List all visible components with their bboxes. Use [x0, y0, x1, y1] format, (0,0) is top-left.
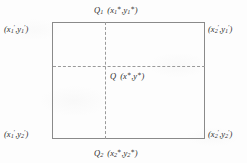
- horizontal-dashed-line: [53, 66, 205, 67]
- label-center-point-q: Q (x∗,y∗): [110, 71, 144, 80]
- label-bottom-point-name: Q2: [94, 148, 103, 158]
- label-top-right-coordinates: (x2′,y1′): [208, 24, 232, 34]
- label-top-left-corner: (x1′,y1′): [4, 24, 28, 34]
- label-bottom-left-corner: (x1′,y2′): [4, 129, 28, 139]
- label-bottom-right-coordinates: (x2′,y2′): [208, 129, 232, 139]
- label-bottom-coordinates: (x2∗,y2∗): [107, 148, 137, 158]
- label-top-coordinates: (x1∗,y1∗): [107, 5, 137, 15]
- label-bottom-point-q2: Q2 (x2∗,y2∗): [94, 148, 138, 158]
- label-bottom-right-corner: (x2′,y2′): [208, 129, 232, 139]
- label-center-coordinates: (x∗,y∗): [120, 71, 144, 81]
- label-top-point-q1: Q1 (x1∗,y1∗): [94, 5, 138, 15]
- figure-canvas: Q1 (x1∗,y1∗) Q2 (x2∗,y2∗) (x1′,y1′) (x2′…: [0, 0, 247, 163]
- label-center-point-name: Q: [110, 71, 116, 81]
- label-top-point-name: Q1: [94, 5, 103, 15]
- label-top-left-coordinates: (x1′,y1′): [4, 24, 28, 34]
- label-top-right-corner: (x2′,y1′): [208, 24, 232, 34]
- vertical-dashed-line: [105, 22, 106, 139]
- label-bottom-left-coordinates: (x1′,y2′): [4, 129, 28, 139]
